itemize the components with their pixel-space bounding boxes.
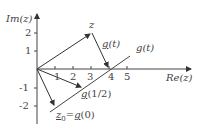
vector-z: [37, 34, 90, 69]
label-arg: (1/2): [87, 88, 111, 99]
point-label-z: z: [89, 20, 94, 30]
x-tick-label: 1: [54, 72, 60, 82]
x-axis-label: Re(z): [166, 73, 193, 83]
x-tick-label: 4: [108, 72, 114, 82]
y-axis-label: Im(z): [6, 14, 33, 24]
equals: =: [66, 109, 74, 120]
label-arg: (t): [108, 38, 120, 49]
label-g-half: g(1/2): [81, 89, 111, 99]
y-tick-label: -1: [19, 83, 29, 93]
label-text: g(t): [136, 42, 154, 53]
x-tick-label: 3: [87, 72, 93, 82]
label-g-t-line: g(t): [136, 43, 154, 53]
y-tick-label: 2: [25, 28, 31, 38]
label-z0: z0=g(0): [56, 110, 95, 124]
x-tick-label: 2: [70, 72, 76, 82]
label-arg: (0): [81, 109, 95, 120]
label-g-t-vector: g(t): [102, 39, 120, 49]
x-tick-label: 5: [124, 72, 130, 82]
line-g-t: [50, 56, 130, 112]
y-tick-label: -2: [19, 101, 29, 111]
y-tick-label: 1: [25, 46, 31, 56]
